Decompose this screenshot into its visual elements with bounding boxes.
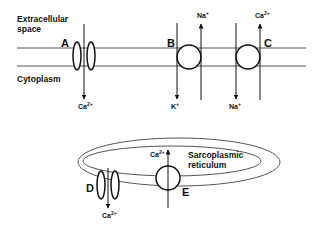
channel-d — [97, 168, 119, 208]
pump-e — [156, 150, 180, 208]
ion-transport-diagram: Extracellular space Cytoplasm A Ca2+ B K… — [0, 0, 321, 232]
sr-label: Sarcoplasmic — [188, 150, 244, 160]
ion-label-na-b: Na+ — [197, 10, 209, 19]
extracellular-label: Extracellular — [17, 14, 69, 24]
label-b: B — [167, 37, 175, 49]
sr-label-2: reticulum — [188, 160, 227, 170]
ion-label-ca-a: Ca2+ — [78, 101, 93, 110]
extracellular-label-2: space — [17, 24, 41, 34]
ion-label-ca-d: Ca2+ — [102, 210, 117, 219]
label-d: D — [86, 182, 94, 194]
cytoplasm-label: Cytoplasm — [17, 74, 61, 84]
ion-label-ca-e: Ca2+ — [150, 149, 165, 158]
ion-label-ca-c: Ca2+ — [255, 10, 270, 19]
exchanger-c — [236, 23, 260, 100]
channel-a — [73, 24, 95, 99]
plasma-membrane — [17, 48, 306, 66]
label-c: C — [264, 37, 272, 49]
pump-b — [177, 23, 201, 100]
ion-label-k: K+ — [171, 101, 179, 110]
label-e: E — [182, 186, 189, 198]
ion-label-na-c: Na+ — [229, 101, 241, 110]
label-a: A — [61, 37, 69, 49]
